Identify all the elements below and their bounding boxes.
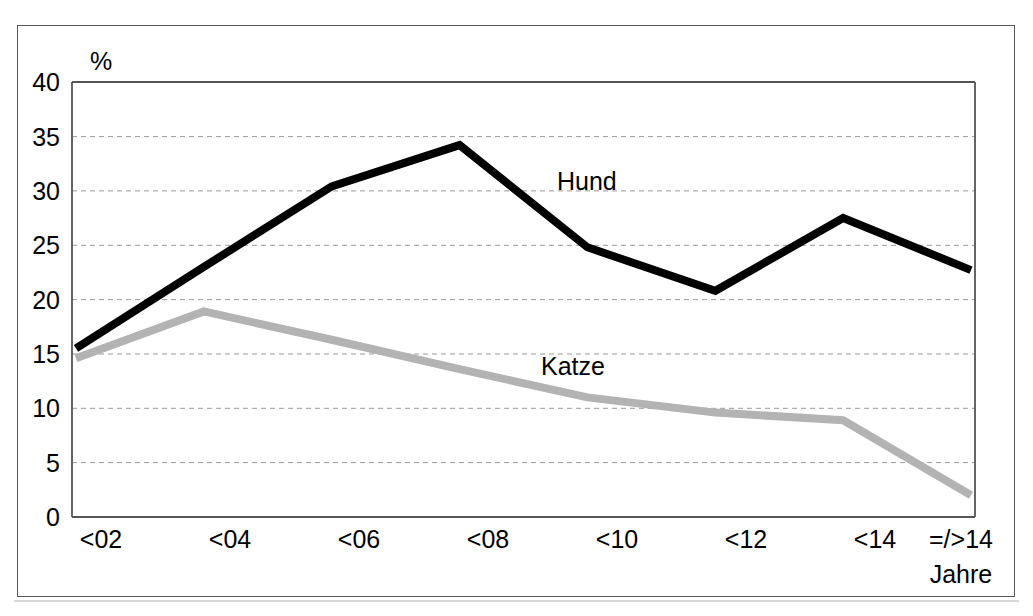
line-chart-plot: 40 35 30 25 20 15 10 5 0 % <02 <04 <06 <… — [0, 0, 1033, 616]
x-tick-label-7: =/>14 — [929, 525, 993, 553]
y-tick-label-0: 0 — [46, 503, 60, 531]
y-tick-label-35: 35 — [32, 123, 60, 151]
series-label-hund: Hund — [557, 167, 617, 195]
x-tick-label-2: <06 — [338, 525, 380, 553]
y-tick-label-10: 10 — [32, 394, 60, 422]
x-tick-label-6: <14 — [854, 525, 897, 553]
x-tick-label-5: <12 — [725, 525, 767, 553]
y-tick-label-15: 15 — [32, 340, 60, 368]
y-axis-tick-labels: 40 35 30 25 20 15 10 5 0 — [32, 68, 60, 531]
series-line-hund — [76, 145, 971, 348]
x-tick-label-4: <10 — [596, 525, 638, 553]
y-tick-label-40: 40 — [32, 68, 60, 96]
y-tick-label-20: 20 — [32, 286, 60, 314]
y-tick-label-25: 25 — [32, 231, 60, 259]
x-tick-label-1: <04 — [209, 525, 252, 553]
series-label-katze: Katze — [541, 352, 605, 380]
x-axis-tick-labels: <02 <04 <06 <08 <10 <12 <14 =/>14 — [80, 525, 993, 553]
x-axis-title: Jahre — [930, 560, 993, 588]
series-line-katze — [76, 311, 971, 495]
x-tick-label-0: <02 — [80, 525, 122, 553]
y-tick-label-5: 5 — [46, 449, 60, 477]
y-axis-unit-label: % — [90, 47, 112, 75]
x-tick-label-3: <08 — [467, 525, 509, 553]
gridlines-group — [72, 137, 975, 463]
y-tick-label-30: 30 — [32, 177, 60, 205]
chart-figure: 40 35 30 25 20 15 10 5 0 % <02 <04 <06 <… — [0, 0, 1033, 616]
